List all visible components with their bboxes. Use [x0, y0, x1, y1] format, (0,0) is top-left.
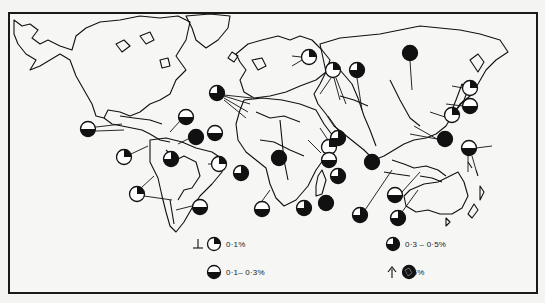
legend-label-0-1: 0·1%: [226, 240, 245, 249]
symbol-west-africa: [234, 166, 249, 181]
world-map: [0, 0, 545, 303]
legend-half-icon: [208, 266, 221, 279]
symbol-caribbean: [189, 130, 204, 145]
legend-label-0-5: 0·5%: [405, 268, 424, 277]
symbol-india: [365, 155, 380, 170]
symbol-philippines: [438, 132, 453, 147]
symbol-russia-west: [350, 63, 365, 78]
greenland-outline: [186, 14, 230, 48]
australia-outline: [404, 172, 468, 214]
legend: [193, 239, 396, 278]
symbol-korea: [445, 108, 460, 123]
symbol-pacific-islands: [462, 141, 477, 156]
europe-outline: [236, 36, 330, 98]
legend-three-quarter-icon: [387, 238, 400, 251]
symbol-japan: [463, 99, 478, 114]
symbol-indonesia-east: [391, 211, 406, 226]
symbol-north-europe: [302, 50, 317, 65]
symbol-brazil-north: [164, 152, 179, 167]
symbol-caribbean-north: [179, 110, 194, 125]
symbol-indonesia-west: [353, 208, 368, 223]
legend-quarter-icon: [208, 238, 221, 251]
symbol-central-africa: [272, 151, 287, 166]
symbol-west-africa-north: [208, 126, 223, 141]
symbol-south-america-west: [130, 187, 145, 202]
north-america-outline: [14, 16, 190, 118]
legend-label-0-1-0-3: 0·1– 0·3%: [226, 268, 265, 277]
symbol-mexico-pacific: [81, 122, 96, 137]
symbol-indian-ocean: [319, 196, 334, 211]
symbol-south-africa: [297, 201, 312, 216]
symbol-argentina: [193, 200, 208, 215]
symbol-iberia-atlantic: [210, 86, 225, 101]
symbol-japan-north: [463, 81, 478, 96]
symbol-central-america: [117, 150, 132, 165]
symbol-east-africa: [322, 153, 337, 168]
symbol-madagascar-north: [331, 169, 346, 184]
symbol-siberia: [403, 46, 418, 61]
arrow-up-icon: [388, 267, 396, 278]
symbol-east-europe: [326, 63, 341, 78]
symbol-brazil-east: [212, 157, 227, 172]
symbol-southwest-africa: [255, 202, 270, 217]
africa-outline: [236, 98, 336, 206]
madagascar-outline: [316, 170, 326, 196]
symbol-middle-east: [331, 131, 346, 146]
symbol-southeast-asia: [388, 188, 403, 203]
arrow-down-icon: [193, 239, 203, 248]
legend-label-0-3-0-5: 0·3 – 0·5%: [405, 240, 446, 249]
south-america-outline: [150, 138, 224, 232]
new-zealand-outline: [480, 186, 484, 200]
